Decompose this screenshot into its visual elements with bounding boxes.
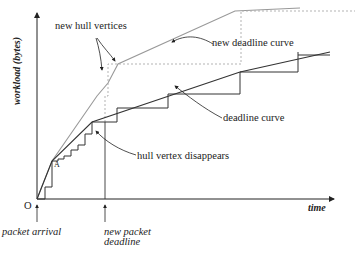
arrow-deadline-curve [175,86,222,118]
x-axis-label: time [308,203,326,213]
arrow-new-hull-vertex-1 [96,38,102,70]
arrow-hull-vertex-disappears [96,131,136,155]
deadline-curve-label: deadline curve [223,113,285,124]
new-packet-deadline-line2: deadline [104,237,151,247]
arrow-new-hull-vertex-2 [97,38,115,61]
origin-label: O [24,201,32,212]
new-hull-vertices-label: new hull vertices [55,21,127,32]
packet-arrival-label: packet arrival [2,227,61,238]
deadline-curve-hull [37,52,330,199]
diagram-canvas: workload (bytes) time O A new hull verti… [0,0,357,257]
new-packet-deadline-label: new packet deadline [104,227,151,247]
arrow-new-deadline-curve [172,37,213,44]
deadline-staircase [37,55,330,199]
point-a-label: A [54,161,60,169]
hull-vertex-disappears-label: hull vertex disappears [137,151,229,162]
y-axis-label: workload (bytes) [12,37,22,105]
new-deadline-curve-label: new deadline curve [212,38,294,49]
diagram-svg [0,0,357,257]
